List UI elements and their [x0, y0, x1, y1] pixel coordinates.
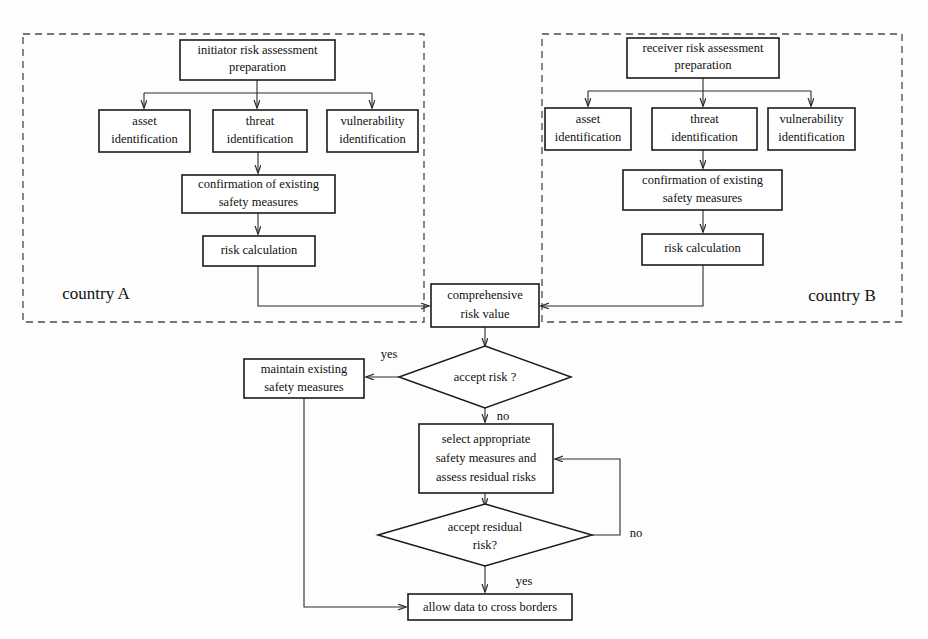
node-label-line-3: assess residual risks: [436, 470, 536, 484]
node-a-vulnerability-identification[interactable]: vulnerability identification: [327, 110, 418, 152]
node-label-line-1: asset: [132, 114, 157, 128]
node-label-line-1: comprehensive: [447, 288, 523, 302]
node-label-line-1: asset: [576, 112, 601, 126]
node-label-line-2: preparation: [229, 60, 287, 74]
node-label-line-2: identification: [671, 130, 738, 144]
node-b-threat-identification[interactable]: threat identification: [652, 108, 757, 150]
node-label-line-2: identification: [111, 132, 178, 146]
node-label-line-2: safety measures: [219, 195, 299, 209]
node-label-line-2: safety measures and: [436, 451, 537, 465]
flowchart-canvas: country A country B: [0, 0, 928, 639]
node-label-line-1: initiator risk assessment: [197, 43, 318, 57]
country-a-label: country A: [62, 284, 130, 303]
country-b-label: country B: [808, 286, 876, 305]
node-b-confirmation-of-existing-safety-measures[interactable]: confirmation of existing safety measures: [623, 170, 782, 210]
node-a-risk-calculation[interactable]: risk calculation: [203, 236, 315, 266]
flowchart-svg: country A country B: [0, 0, 928, 639]
node-label-line-2: identification: [555, 130, 622, 144]
node-label-line-1: allow data to cross borders: [423, 600, 557, 614]
node-label-line-1: vulnerability: [341, 114, 406, 128]
node-comprehensive-risk-value[interactable]: comprehensive risk value: [431, 284, 539, 327]
node-label-line-1: maintain existing: [261, 362, 348, 376]
node-a-asset-identification[interactable]: asset identification: [99, 110, 190, 152]
node-a-threat-identification[interactable]: threat identification: [213, 110, 307, 152]
node-label-line-1: threat: [246, 114, 275, 128]
node-label-line-1: risk calculation: [664, 241, 741, 255]
node-label-line-1: threat: [690, 112, 719, 126]
node-label-line-2: risk?: [473, 538, 498, 552]
node-label-line-2: safety measures: [264, 380, 344, 394]
node-label-line-1: risk calculation: [221, 243, 298, 257]
node-label-line-1: accept risk ?: [454, 370, 517, 384]
node-b-risk-calculation[interactable]: risk calculation: [642, 234, 763, 265]
node-label-line-2: identification: [778, 130, 845, 144]
edge-label-accept-risk-no: no: [497, 409, 510, 423]
node-label-line-2: identification: [227, 132, 294, 146]
node-accept-residual-risk-decision[interactable]: accept residual risk?: [378, 504, 592, 566]
node-label-line-2: risk value: [461, 307, 510, 321]
node-diamond-shape[interactable]: [378, 504, 592, 566]
node-initiator-prep[interactable]: initiator risk assessment preparation: [180, 40, 335, 80]
node-select-appropriate-measures[interactable]: select appropriate safety measures and a…: [419, 424, 553, 493]
edge-label-residual-risk-no: no: [630, 526, 643, 540]
edge-label-accept-risk-yes: yes: [381, 347, 398, 361]
node-label-line-1: select appropriate: [442, 432, 531, 446]
node-b-vulnerability-identification[interactable]: vulnerability identification: [768, 108, 855, 150]
node-label-line-1: confirmation of existing: [198, 177, 320, 191]
edge-risk-a-to-comprehensive: [258, 266, 429, 306]
node-a-confirmation-of-existing-safety-measures[interactable]: confirmation of existing safety measures: [182, 175, 335, 213]
node-label-line-1: confirmation of existing: [642, 173, 764, 187]
node-accept-risk-decision[interactable]: accept risk ?: [399, 346, 571, 408]
node-allow-data-to-cross-borders[interactable]: allow data to cross borders: [408, 594, 572, 620]
node-label-line-2: identification: [339, 132, 406, 146]
node-b-asset-identification[interactable]: asset identification: [545, 108, 631, 150]
node-label-line-2: safety measures: [663, 191, 743, 205]
node-label-line-1: receiver risk assessment: [643, 41, 764, 55]
edge-residual-no-loop-to-select: [555, 459, 620, 535]
node-label-line-2: preparation: [675, 58, 733, 72]
edge-maintain-to-allow: [304, 398, 406, 607]
node-receiver-prep[interactable]: receiver risk assessment preparation: [627, 38, 779, 78]
node-label-line-1: vulnerability: [780, 112, 845, 126]
edge-risk-b-to-comprehensive: [541, 265, 703, 306]
edge-label-residual-risk-yes: yes: [516, 574, 533, 588]
node-label-line-1: accept residual: [448, 520, 523, 534]
node-maintain-existing-safety-measures[interactable]: maintain existing safety measures: [244, 359, 364, 398]
